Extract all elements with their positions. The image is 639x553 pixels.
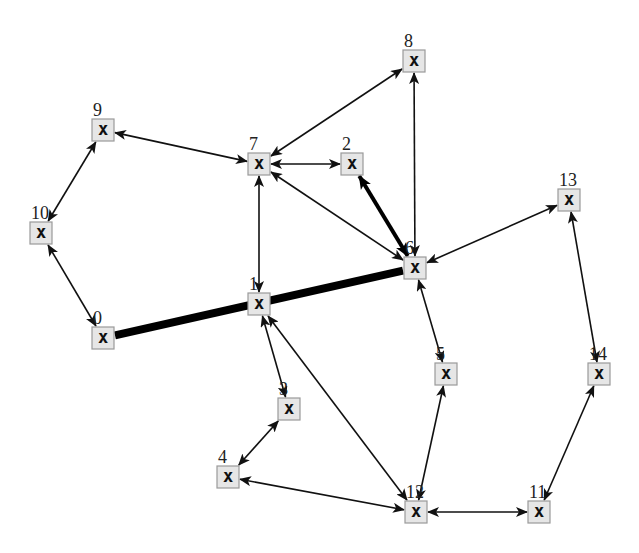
node-x-icon: x xyxy=(284,398,294,418)
node-9[interactable]: x9 xyxy=(92,100,114,141)
node-5[interactable]: x5 xyxy=(435,344,457,385)
edge-10-9 xyxy=(48,142,96,221)
edges-layer xyxy=(48,69,597,512)
edge-14-13 xyxy=(571,212,597,362)
edge-7-8 xyxy=(271,69,402,156)
node-8[interactable]: x8 xyxy=(403,31,425,72)
edge-4-12 xyxy=(240,479,404,510)
node-x-icon: x xyxy=(98,327,108,347)
node-14[interactable]: x14 xyxy=(588,344,610,385)
node-13[interactable]: x13 xyxy=(558,170,580,211)
network-graph: x0x1x2x3x4x5x6x7x8x9x10x11x12x13x14 xyxy=(0,0,639,553)
node-7[interactable]: x7 xyxy=(248,134,270,175)
node-label: 11 xyxy=(529,482,546,502)
node-4[interactable]: x4 xyxy=(217,447,239,488)
edge-0-10 xyxy=(48,245,96,326)
node-x-icon: x xyxy=(409,50,419,70)
node-x-icon: x xyxy=(98,119,108,139)
node-x-icon: x xyxy=(254,293,264,313)
node-0[interactable]: x0 xyxy=(92,308,114,349)
node-label: 9 xyxy=(93,100,102,120)
nodes-layer: x0x1x2x3x4x5x6x7x8x9x10x11x12x13x14 xyxy=(30,31,610,523)
node-x-icon: x xyxy=(223,466,233,486)
node-10[interactable]: x10 xyxy=(30,203,52,244)
edge-2-6 xyxy=(359,176,407,256)
edge-3-4 xyxy=(239,421,278,465)
node-x-icon: x xyxy=(441,363,451,383)
node-x-icon: x xyxy=(534,501,544,521)
node-label: 12 xyxy=(406,482,424,502)
node-label: 7 xyxy=(249,134,258,154)
node-x-icon: x xyxy=(564,189,574,209)
node-label: 4 xyxy=(218,447,227,467)
node-x-icon: x xyxy=(411,501,421,521)
node-label: 5 xyxy=(436,344,445,364)
node-x-icon: x xyxy=(410,257,420,277)
node-x-icon: x xyxy=(347,153,357,173)
node-x-icon: x xyxy=(254,153,264,173)
node-3[interactable]: x3 xyxy=(278,379,300,420)
edge-6-13 xyxy=(427,205,557,262)
edge-9-7 xyxy=(115,133,247,162)
node-label: 2 xyxy=(342,134,351,154)
node-label: 10 xyxy=(31,203,49,223)
node-label: 1 xyxy=(249,274,258,294)
node-label: 13 xyxy=(559,170,577,190)
edge-11-14 xyxy=(544,386,594,500)
node-label: 6 xyxy=(405,238,414,258)
node-label: 14 xyxy=(589,344,607,364)
node-2[interactable]: x2 xyxy=(341,134,363,175)
node-x-icon: x xyxy=(594,363,604,383)
node-label: 3 xyxy=(279,379,288,399)
node-11[interactable]: x11 xyxy=(528,482,550,523)
node-12[interactable]: x12 xyxy=(405,482,427,523)
node-label: 0 xyxy=(93,308,102,328)
node-label: 8 xyxy=(404,31,413,51)
node-x-icon: x xyxy=(36,222,46,242)
edge-8-6 xyxy=(414,73,415,256)
